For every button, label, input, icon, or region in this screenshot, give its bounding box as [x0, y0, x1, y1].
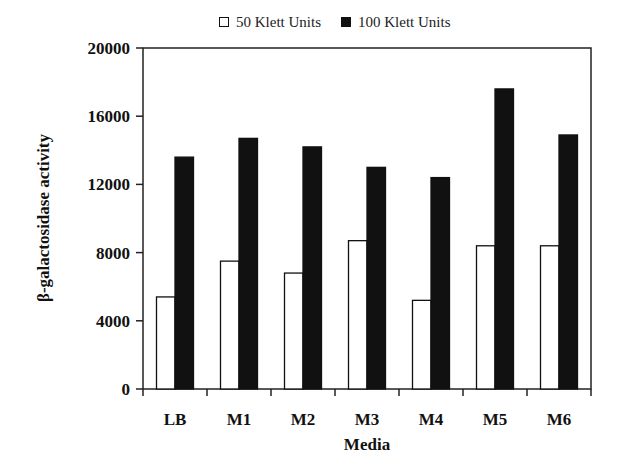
bar-100-klett [559, 135, 578, 389]
y-axis: 040008000120001600020000 [88, 39, 144, 399]
bar-50-klett [477, 246, 496, 389]
bar-50-klett [349, 241, 368, 389]
x-axis: LBM1M2M3M4M5M6 [143, 389, 591, 429]
bar-100-klett [367, 167, 386, 389]
y-tick-label: 8000 [96, 244, 130, 263]
bar-chart: 040008000120001600020000 LBM1M2M3M4M5M6 … [0, 0, 623, 476]
bar-100-klett [175, 157, 194, 389]
y-tick-label: 16000 [88, 107, 131, 126]
y-tick-label: 0 [122, 380, 131, 399]
x-tick-label: M5 [483, 410, 508, 429]
bar-50-klett [157, 297, 176, 389]
y-tick-label: 4000 [96, 312, 130, 331]
x-tick-label: M3 [355, 410, 380, 429]
y-axis-label: β-galactosidase activity [34, 133, 53, 302]
x-tick-label: LB [164, 410, 187, 429]
x-tick-label: M6 [547, 410, 572, 429]
bar-50-klett [413, 300, 432, 389]
bar-50-klett [221, 261, 240, 389]
y-tick-label: 20000 [88, 39, 131, 58]
y-tick-label: 12000 [88, 175, 131, 194]
bar-100-klett [303, 147, 322, 389]
bar-100-klett [239, 138, 258, 389]
bar-100-klett [431, 178, 450, 389]
bars [157, 89, 578, 389]
bar-50-klett [285, 273, 304, 389]
bar-50-klett [541, 246, 560, 389]
x-tick-label: M2 [291, 410, 316, 429]
bar-100-klett [495, 89, 514, 389]
x-axis-label: Media [344, 435, 391, 454]
x-tick-label: M4 [419, 410, 444, 429]
x-tick-label: M1 [227, 410, 252, 429]
